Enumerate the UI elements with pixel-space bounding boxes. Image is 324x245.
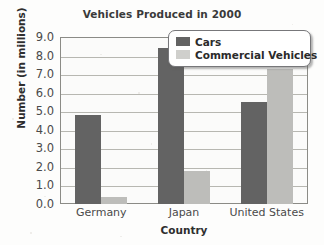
y-axis-tick-label: 9.0 — [36, 30, 54, 44]
legend-label: Commercial Vehicles — [195, 49, 317, 61]
x-axis-tick-labels: GermanyJapanUnited States — [60, 206, 308, 224]
chart-legend: Cars Commercial Vehicles — [168, 30, 311, 67]
y-axis-tick-label: 0.0 — [36, 197, 54, 211]
bar-japan-commercial-vehicles — [184, 171, 210, 204]
bar-united-states-cars — [241, 102, 267, 204]
y-axis-tick-label: 3.0 — [36, 141, 54, 155]
bar-chart-figure: Vehicles Produced in 2000 Number (in mil… — [0, 0, 324, 245]
y-axis-tick-label: 8.0 — [36, 49, 54, 63]
legend-swatch-cars-icon — [176, 37, 190, 46]
scan-speckle — [138, 92, 140, 94]
scan-speckle — [30, 232, 32, 234]
bar-japan-cars — [158, 48, 184, 204]
scan-speckle — [44, 196, 46, 197]
scan-speckle — [206, 170, 207, 171]
x-axis-title: Country — [60, 224, 308, 236]
scan-speckle — [151, 143, 152, 145]
y-axis-tick-label: 2.0 — [36, 160, 54, 174]
legend-label: Cars — [195, 36, 221, 48]
y-axis-tick-label: 7.0 — [36, 67, 54, 81]
bar-germany-cars — [75, 115, 101, 204]
legend-swatch-commercial-icon — [176, 50, 190, 59]
chart-title: Vehicles Produced in 2000 — [0, 8, 324, 20]
scan-speckle — [18, 66, 19, 67]
y-axis-tick-label: 1.0 — [36, 178, 54, 192]
x-axis-tick-label: Japan — [169, 206, 200, 219]
bar-united-states-commercial-vehicles — [267, 69, 293, 204]
legend-item: Commercial Vehicles — [176, 48, 304, 61]
scan-speckle — [100, 54, 102, 55]
legend-item: Cars — [176, 35, 304, 48]
y-axis-tick-label: 6.0 — [36, 86, 54, 100]
scan-speckle — [120, 236, 122, 237]
x-axis-tick-label: United States — [229, 206, 304, 219]
scan-speckle — [292, 24, 293, 25]
y-axis-tick-label: 4.0 — [36, 123, 54, 137]
y-axis-tick-label: 5.0 — [36, 104, 54, 118]
y-axis-tick-labels: 0.01.02.03.04.05.06.07.08.09.0 — [14, 37, 58, 204]
scan-speckle — [12, 118, 14, 120]
x-axis-tick-label: Germany — [76, 206, 127, 219]
bar-germany-commercial-vehicles — [101, 197, 127, 204]
